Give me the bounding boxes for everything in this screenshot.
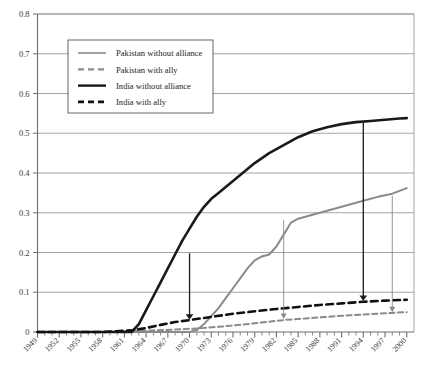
x-tick-label: 1955 bbox=[65, 336, 83, 354]
x-tick-label: 1985 bbox=[282, 336, 300, 354]
x-tick-label: 1967 bbox=[152, 336, 170, 354]
x-tick-label: 1982 bbox=[260, 336, 278, 354]
y-tick-label: 0.4 bbox=[19, 168, 30, 178]
data-series bbox=[38, 118, 407, 332]
india-arrow-1994-head bbox=[360, 295, 368, 301]
annotation-arrows bbox=[186, 122, 396, 320]
pakistan-arrow-1998-head bbox=[389, 307, 395, 313]
x-tick-label: 1979 bbox=[238, 336, 256, 354]
y-tick-label: 0.5 bbox=[19, 128, 30, 138]
y-tick-label: 0.8 bbox=[19, 9, 30, 19]
x-tick-label: 1958 bbox=[86, 336, 104, 354]
y-tick-label: 0.3 bbox=[19, 208, 30, 218]
legend-box: Pakistan without alliancePakistan with a… bbox=[68, 40, 213, 113]
y-axis-labels: 00.10.20.30.40.50.60.70.8 bbox=[19, 9, 30, 337]
legend-label-0: Pakistan without alliance bbox=[116, 48, 203, 58]
legend-label-2: India without alliance bbox=[116, 81, 191, 91]
x-tick-label: 1970 bbox=[173, 336, 191, 354]
y-axis-ticks bbox=[33, 14, 38, 332]
series-line-2 bbox=[38, 118, 407, 332]
x-tick-label: 1949 bbox=[21, 336, 39, 354]
x-tick-label: 1952 bbox=[43, 336, 61, 354]
series-line-0 bbox=[38, 188, 407, 332]
x-axis-labels: 1949195219551958196119641967197019731976… bbox=[21, 336, 408, 354]
x-tick-label: 1994 bbox=[347, 336, 365, 354]
y-tick-label: 0.6 bbox=[19, 89, 30, 99]
y-tick-label: 0 bbox=[25, 327, 29, 337]
chart-container: 00.10.20.30.40.50.60.70.8 19491952195519… bbox=[0, 0, 430, 383]
y-tick-label: 0.1 bbox=[19, 287, 30, 297]
legend-label-3: India with ally bbox=[116, 97, 167, 107]
x-tick-label: 1976 bbox=[217, 336, 235, 354]
pakistan-arrow-1983-head bbox=[281, 313, 287, 319]
x-tick-label: 1961 bbox=[108, 336, 126, 354]
x-tick-label: 1988 bbox=[304, 336, 322, 354]
x-tick-label: 1997 bbox=[369, 336, 387, 354]
y-tick-label: 0.7 bbox=[19, 49, 30, 59]
x-tick-label: 1991 bbox=[325, 336, 343, 354]
x-tick-label: 1964 bbox=[130, 336, 148, 354]
line-chart: 00.10.20.30.40.50.60.70.8 19491952195519… bbox=[0, 0, 430, 383]
x-tick-label: 2000 bbox=[390, 336, 408, 354]
legend-label-1: Pakistan with ally bbox=[116, 65, 178, 75]
y-tick-label: 0.2 bbox=[19, 248, 30, 258]
x-tick-label: 1973 bbox=[195, 336, 213, 354]
